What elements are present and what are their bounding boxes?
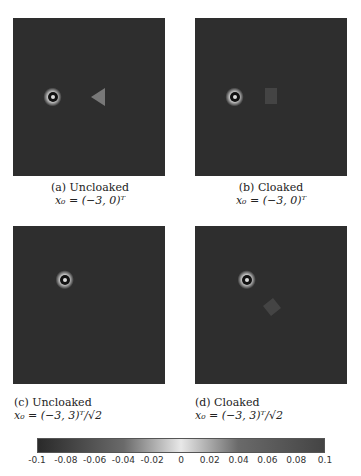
wave-field-c bbox=[13, 226, 165, 384]
colorbar-tick-label: -0.04 bbox=[112, 455, 135, 465]
wave-field-a bbox=[13, 18, 165, 176]
caption-a: (a) Uncloakedx₀ = (−3, 0)ᵀ bbox=[0, 181, 180, 207]
colorbar-tick-label: -0.06 bbox=[83, 455, 106, 465]
wave-field-b bbox=[195, 18, 347, 176]
colorbar-tick-label: 0 bbox=[178, 455, 184, 465]
caption-d: (d) Cloakedx₀ = (−3, 3)ᵀ/√2 bbox=[181, 396, 361, 422]
colorbar bbox=[37, 438, 325, 453]
caption-formula: x₀ = (−3, 3)ᵀ/√2 bbox=[14, 409, 194, 422]
wave-field-d bbox=[195, 226, 347, 384]
panel-d bbox=[195, 226, 347, 384]
colorbar-tick-label: 0.1 bbox=[318, 455, 332, 465]
colorbar-tick-label: -0.02 bbox=[141, 455, 164, 465]
caption-title: (b) Cloaked bbox=[181, 181, 361, 194]
caption-formula: x₀ = (−3, 0)ᵀ bbox=[181, 194, 361, 207]
colorbar-tick-label: 0.04 bbox=[229, 455, 249, 465]
colorbar-tick-label: -0.08 bbox=[54, 455, 77, 465]
panel-a bbox=[13, 18, 165, 176]
caption-formula: x₀ = (−3, 0)ᵀ bbox=[0, 194, 180, 207]
colorbar-tick-label: -0.1 bbox=[28, 455, 46, 465]
caption-title: (c) Uncloaked bbox=[14, 396, 194, 409]
cloak-region bbox=[265, 88, 277, 104]
caption-formula: x₀ = (−3, 3)ᵀ/√2 bbox=[195, 409, 361, 422]
caption-c: (c) Uncloakedx₀ = (−3, 3)ᵀ/√2 bbox=[0, 396, 194, 422]
caption-title: (a) Uncloaked bbox=[0, 181, 180, 194]
panel-b bbox=[195, 18, 347, 176]
colorbar-tick-label: 0.02 bbox=[200, 455, 220, 465]
colorbar-tick-label: 0.06 bbox=[257, 455, 277, 465]
colorbar-tick-label: 0.08 bbox=[286, 455, 306, 465]
caption-b: (b) Cloakedx₀ = (−3, 0)ᵀ bbox=[181, 181, 361, 207]
panel-c bbox=[13, 226, 165, 384]
caption-title: (d) Cloaked bbox=[195, 396, 361, 409]
